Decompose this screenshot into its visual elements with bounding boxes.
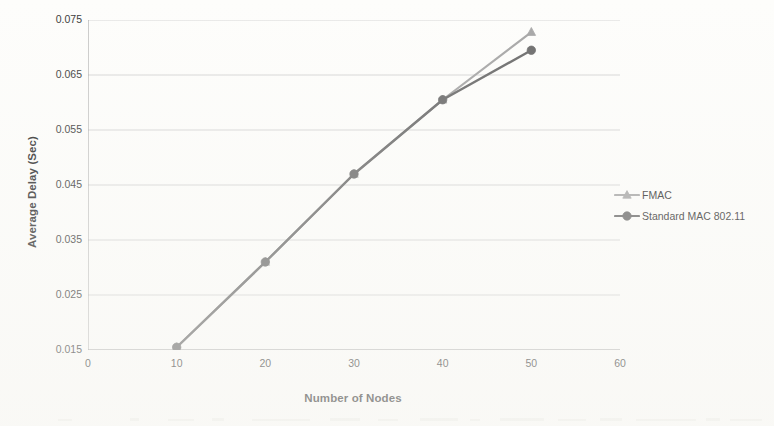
x-tick-label: 0 [68,358,108,369]
legend-circle-marker-icon [614,209,640,223]
gridlines [88,20,620,350]
y-tick-label: 0.025 [34,289,82,300]
x-tick-label: 60 [600,358,640,369]
data-point-marker [172,343,180,350]
plot-svg [88,20,620,350]
scan-noise-artifact [0,414,774,426]
y-tick-label: 0.055 [34,124,82,135]
data-series-layer [172,28,535,351]
data-point-marker [350,170,358,178]
y-tick-label: 0.075 [34,14,82,25]
x-tick-label: 50 [511,358,551,369]
series-line [177,50,532,347]
y-tick-label: 0.065 [34,69,82,80]
chart-figure: Average Delay (Sec) 0.0150.0250.0350.045… [0,0,774,426]
x-axis-title: Number of Nodes [238,392,468,404]
y-tick-label: 0.045 [34,179,82,190]
plot-area [88,20,620,350]
legend-item[interactable]: Standard MAC 802.11 [614,207,772,225]
series-standard-mac-802-11 [172,46,535,350]
x-tick-label: 10 [157,358,197,369]
legend-triangle-marker-icon [614,188,640,202]
data-point-marker [527,28,535,36]
legend-item[interactable]: FMAC [614,186,772,204]
y-tick-label: 0.035 [34,234,82,245]
legend-item-label: FMAC [642,190,672,201]
series-fmac [172,28,535,351]
x-axis-tick-labels: 0102030405060 [0,358,774,374]
x-tick-label: 20 [245,358,285,369]
x-tick-label: 40 [423,358,463,369]
data-point-marker [527,46,535,54]
data-point-marker [438,96,446,104]
x-tick-label: 30 [334,358,374,369]
chart-legend: FMACStandard MAC 802.11 [614,186,772,228]
y-tick-label: 0.015 [34,344,82,355]
legend-item-label: Standard MAC 802.11 [642,211,745,222]
data-point-marker [261,258,269,266]
